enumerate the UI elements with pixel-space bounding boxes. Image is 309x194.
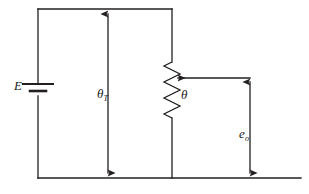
label-output-voltage-symbol: e bbox=[239, 126, 245, 141]
label-output-voltage: eo bbox=[239, 127, 249, 140]
label-total-angle-subscript: T bbox=[104, 94, 108, 103]
label-source-voltage-symbol: E bbox=[14, 78, 22, 93]
label-total-angle-symbol: θ bbox=[97, 86, 103, 101]
label-output-voltage-subscript: o bbox=[245, 134, 249, 143]
label-source-voltage: E bbox=[14, 79, 22, 92]
potentiometer-zigzag bbox=[164, 62, 180, 118]
circuit-diagram-figure: E θT θ eo bbox=[0, 0, 309, 194]
label-wiper-angle: θ bbox=[181, 88, 187, 101]
label-wiper-angle-symbol: θ bbox=[181, 87, 187, 102]
circuit-schematic-canvas bbox=[0, 0, 309, 194]
label-total-angle: θT bbox=[97, 87, 108, 100]
